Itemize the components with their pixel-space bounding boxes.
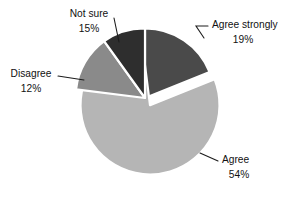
pie-chart: Not sure 15% Agree strongly 19% Disagree… [0,0,287,197]
leader-line-agree [200,153,218,161]
label-agree-strongly-name: Agree strongly [212,19,279,30]
label-agree-percent: 54% [229,169,249,180]
label-not-sure-percent: 15% [79,23,99,34]
label-disagree-percent: 12% [21,83,41,94]
label-agree-name: Agree [222,154,250,165]
leader-line-agree-strongly [196,26,208,38]
label-agree-strongly-percent: 19% [233,34,253,45]
pie-chart-canvas: Not sure 15% Agree strongly 19% Disagree… [0,0,287,197]
label-not-sure-name: Not sure [70,8,109,19]
label-disagree-name: Disagree [11,68,52,79]
